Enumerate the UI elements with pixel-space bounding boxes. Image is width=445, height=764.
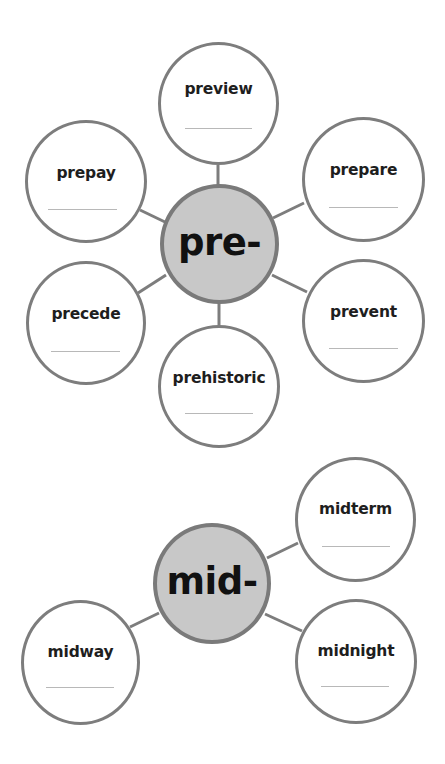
connector-prepare bbox=[273, 203, 304, 218]
answer-blank[interactable] bbox=[329, 207, 398, 208]
word-label: midnight bbox=[298, 642, 414, 660]
word-label: prepay bbox=[28, 164, 144, 182]
prefix-label: mid- bbox=[166, 560, 257, 603]
answer-blank[interactable] bbox=[321, 686, 389, 687]
word-node-precede: precede bbox=[26, 261, 146, 385]
connector-prevent bbox=[272, 275, 307, 292]
connector-midway bbox=[130, 613, 159, 627]
word-node-preview: preview bbox=[158, 42, 279, 165]
hub-pre: pre- bbox=[160, 184, 279, 304]
hub-mid: mid- bbox=[153, 523, 271, 644]
word-node-prepay: prepay bbox=[25, 120, 147, 243]
word-node-midterm: midterm bbox=[295, 457, 416, 582]
prefix-label: pre- bbox=[178, 221, 261, 264]
word-label: prevent bbox=[305, 303, 422, 321]
answer-blank[interactable] bbox=[185, 128, 252, 129]
answer-blank[interactable] bbox=[329, 348, 398, 349]
word-label: midterm bbox=[298, 500, 413, 518]
answer-blank[interactable] bbox=[46, 687, 114, 688]
connector-midterm bbox=[267, 543, 298, 558]
answer-blank[interactable] bbox=[48, 209, 117, 210]
answer-blank[interactable] bbox=[51, 351, 120, 352]
answer-blank[interactable] bbox=[185, 413, 253, 414]
word-node-prepare: prepare bbox=[302, 117, 425, 242]
word-label: preview bbox=[161, 80, 276, 98]
word-label: midway bbox=[24, 643, 137, 661]
connector-midnight bbox=[265, 614, 302, 631]
word-label: prepare bbox=[305, 161, 422, 179]
connector-prepay bbox=[140, 210, 165, 222]
word-node-prehistoric: prehistoric bbox=[158, 325, 280, 448]
word-node-midway: midway bbox=[21, 600, 140, 725]
connector-precede bbox=[138, 275, 166, 293]
word-label: prehistoric bbox=[161, 369, 277, 387]
word-label: precede bbox=[29, 305, 143, 323]
word-node-prevent: prevent bbox=[302, 259, 425, 383]
word-node-midnight: midnight bbox=[295, 599, 417, 724]
answer-blank[interactable] bbox=[322, 546, 390, 547]
